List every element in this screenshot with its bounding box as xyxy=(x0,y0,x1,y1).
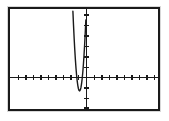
plot-area xyxy=(10,9,158,109)
screenshot-root xyxy=(0,0,169,121)
graph-canvas xyxy=(10,9,158,109)
parabola-curve xyxy=(73,11,86,91)
